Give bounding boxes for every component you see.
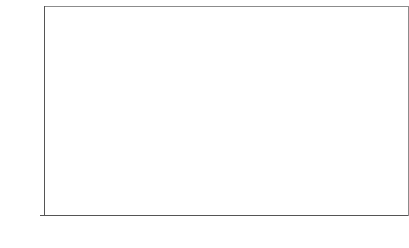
x-axis: [40, 215, 408, 216]
plot-area: [44, 6, 409, 216]
y-axis: [44, 6, 45, 216]
